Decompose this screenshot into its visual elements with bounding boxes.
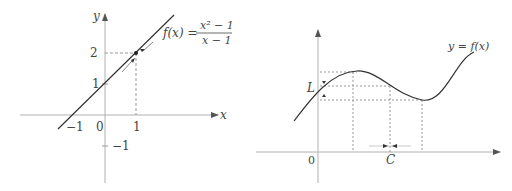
- x-axis-label: x: [220, 108, 227, 122]
- tick-x-1: 1: [133, 120, 141, 134]
- y-axis-label: y: [92, 9, 100, 23]
- function-denominator: x − 1: [202, 34, 231, 47]
- function-label: f(x) =: [162, 26, 197, 40]
- tick-y-2: 2: [90, 46, 98, 60]
- tick-y-neg1: −1: [112, 139, 130, 153]
- left-figure: x y −1 0 1 1 2 −1 f(x) = x² − 1 x − 1: [20, 9, 234, 183]
- hole-point: [134, 51, 138, 55]
- diagram-canvas: x y −1 0 1 1 2 −1 f(x) = x² − 1 x − 1: [0, 0, 512, 191]
- point-label: C: [386, 153, 395, 167]
- tick-x-neg1: −1: [66, 120, 84, 134]
- right-figure: L C 0 y = f(x): [256, 30, 500, 183]
- curve-label: y = f(x): [447, 40, 489, 53]
- origin-label: 0: [308, 154, 315, 167]
- function-numerator: x² − 1: [200, 19, 234, 32]
- limit-label: L: [306, 81, 315, 95]
- function-line: [58, 15, 174, 129]
- tick-x-0: 0: [96, 120, 104, 134]
